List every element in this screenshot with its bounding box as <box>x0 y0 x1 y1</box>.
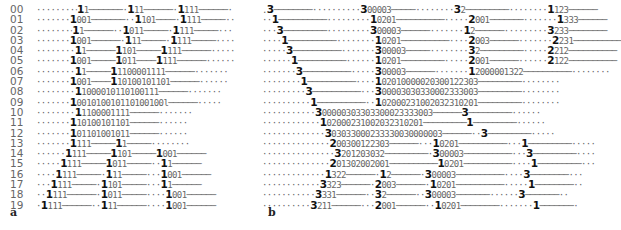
panel-a-row: 15·····1111─────1011─────··11────── <box>0 158 260 168</box>
panel-a-row: 16····1111─────·111─────···1001────── <box>0 169 260 179</box>
panel-b: .3────────··········300003─────········3… <box>262 4 620 214</box>
panel-b-row: ············102000231002032310201───────… <box>262 117 620 127</box>
panel-b-row: ······1──────────······10201─────────···… <box>262 55 620 65</box>
panel-a-row: 11·······110100101101──────······ <box>0 117 260 127</box>
panel-b-row: ··············200300122303──────···10201… <box>262 138 620 148</box>
panel-a-row: 18··1111──────·1011─────····1001────── <box>0 189 260 199</box>
panel-b-row: ·······3──────────·····300003──────·····… <box>262 66 620 76</box>
panel-a-row: 19·1111──────··111──────····1001────── <box>0 200 260 210</box>
panel-a-row: 10········11100001111──────······· <box>0 107 260 117</box>
panel-b-row: ····1──────────········10201──────────··… <box>262 35 620 45</box>
panel-b-row: ··1──────────·········10201──────────···… <box>262 14 620 24</box>
row-sequence: ··········3211──────···2001──────··10201… <box>262 200 578 211</box>
panel-b-row: .3────────··········300003─────········3… <box>262 4 620 14</box>
panel-b-row: ···3─────────·········300003──────······… <box>262 25 620 35</box>
panel-a-row: 07·······1001────110100101101──────·····… <box>0 76 260 86</box>
panel-a-row: 13·······1111─────11─────········ <box>0 138 260 148</box>
panel-b-row: ··········3211──────···2001──────··10201… <box>262 200 620 210</box>
panel-b-row: ·····3──────────·······300003─────······… <box>262 45 620 55</box>
panel-a-row: 01·······1001───────··1101────·1111─────… <box>0 14 260 24</box>
row-sequence: ·1111──────··111──────····1001────── <box>36 200 215 211</box>
panel-b-label: b <box>268 206 276 219</box>
panel-b-row: ········1──────────····10201000002030012… <box>262 76 620 86</box>
panel-b-row: ·············303033000233330030000003───… <box>262 128 620 138</box>
panel-a: 00········‧11───────·111──────·1111─────… <box>0 4 260 214</box>
panel-a-row: 00········‧11───────·111──────·1111─────… <box>0 4 260 14</box>
panel-a-row: 05·······1001─────1011────1111──────····… <box>0 55 260 65</box>
panel-a-label: a <box>10 206 17 219</box>
panel-a-row: 04········11──────1101─────1111──────···… <box>0 45 260 55</box>
panel-a-row: 09·······1001010010110100100l──────····· <box>0 97 260 107</box>
panel-a-row: 08········11000010110100111──────······· <box>0 86 260 96</box>
panel-a-row: 12·······101101001011──────······ <box>0 128 260 138</box>
panel-b-row: ·············1322──────·12──────·300003─… <box>262 169 620 179</box>
panel-a-row: 17···1111─────·1101─────···11────── <box>0 179 260 189</box>
panel-b-row: ··············201302002001──────────1020… <box>262 158 620 168</box>
panel-a-row: 03·······1001──────·111─────·1111─────··… <box>0 35 260 45</box>
panel-a-row: 14······1111─────1101─────1001────── <box>0 148 260 158</box>
panel-a-row: 06········11─────11100001111──────······… <box>0 66 260 76</box>
panel-b-row: ···········300000303303300023333003─────… <box>262 107 620 117</box>
